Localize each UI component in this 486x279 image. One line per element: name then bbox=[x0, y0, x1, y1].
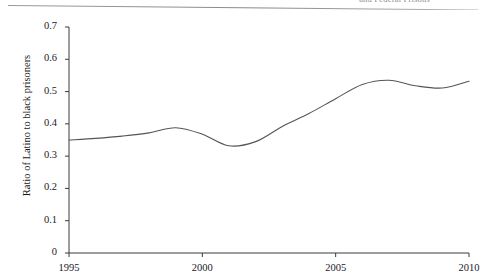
y-axis-ticks bbox=[65, 27, 69, 253]
x-tick-label: 2005 bbox=[314, 262, 358, 273]
x-tick-label: 1995 bbox=[47, 262, 91, 273]
line-chart: Ratio of Latino to black prisoners 00.10… bbox=[0, 0, 486, 279]
y-tick-label: 0.6 bbox=[31, 52, 57, 63]
y-tick-label: 0.7 bbox=[31, 20, 57, 31]
x-tick-label: 2010 bbox=[447, 262, 486, 273]
y-tick-label: 0.2 bbox=[31, 181, 57, 192]
data-series-line bbox=[69, 80, 469, 146]
plot-area bbox=[0, 0, 486, 279]
figure-page: and Federal Prisons Ratio of Latino to b… bbox=[0, 0, 486, 279]
y-tick-label: 0.3 bbox=[31, 149, 57, 160]
y-tick-label: 0 bbox=[31, 246, 57, 257]
x-tick-label: 2000 bbox=[180, 262, 224, 273]
y-tick-label: 0.5 bbox=[31, 85, 57, 96]
y-axis-title: Ratio of Latino to black prisoners bbox=[21, 31, 32, 221]
y-tick-label: 0.4 bbox=[31, 117, 57, 128]
x-axis-ticks bbox=[69, 253, 469, 257]
y-tick-label: 0.1 bbox=[31, 214, 57, 225]
